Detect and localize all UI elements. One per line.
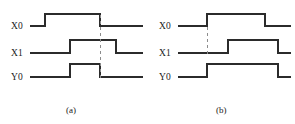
signal-label-x1-b: X1	[159, 48, 171, 58]
waveform-trace-x0-a	[30, 14, 143, 26]
timing-diagram-figure: X0 X1 Y0 X0 X1 Y0 (a) (b)	[0, 0, 295, 124]
signal-label-x0-a: X0	[11, 21, 23, 31]
waveform-trace-x0-b	[178, 14, 291, 26]
signal-label-x1-a: X1	[11, 48, 23, 58]
waveform-trace-x1-b	[178, 40, 291, 53]
waveform-trace-y0-a	[30, 64, 143, 77]
waveform-trace-y0-b	[178, 64, 291, 77]
waveform-trace-x1-a	[30, 40, 143, 53]
panel-caption-a: (a)	[66, 105, 76, 115]
signal-label-x0-b: X0	[159, 21, 171, 31]
signal-label-y0-b: Y0	[159, 72, 171, 82]
panel-caption-b: (b)	[216, 105, 227, 115]
signal-label-y0-a: Y0	[11, 72, 23, 82]
